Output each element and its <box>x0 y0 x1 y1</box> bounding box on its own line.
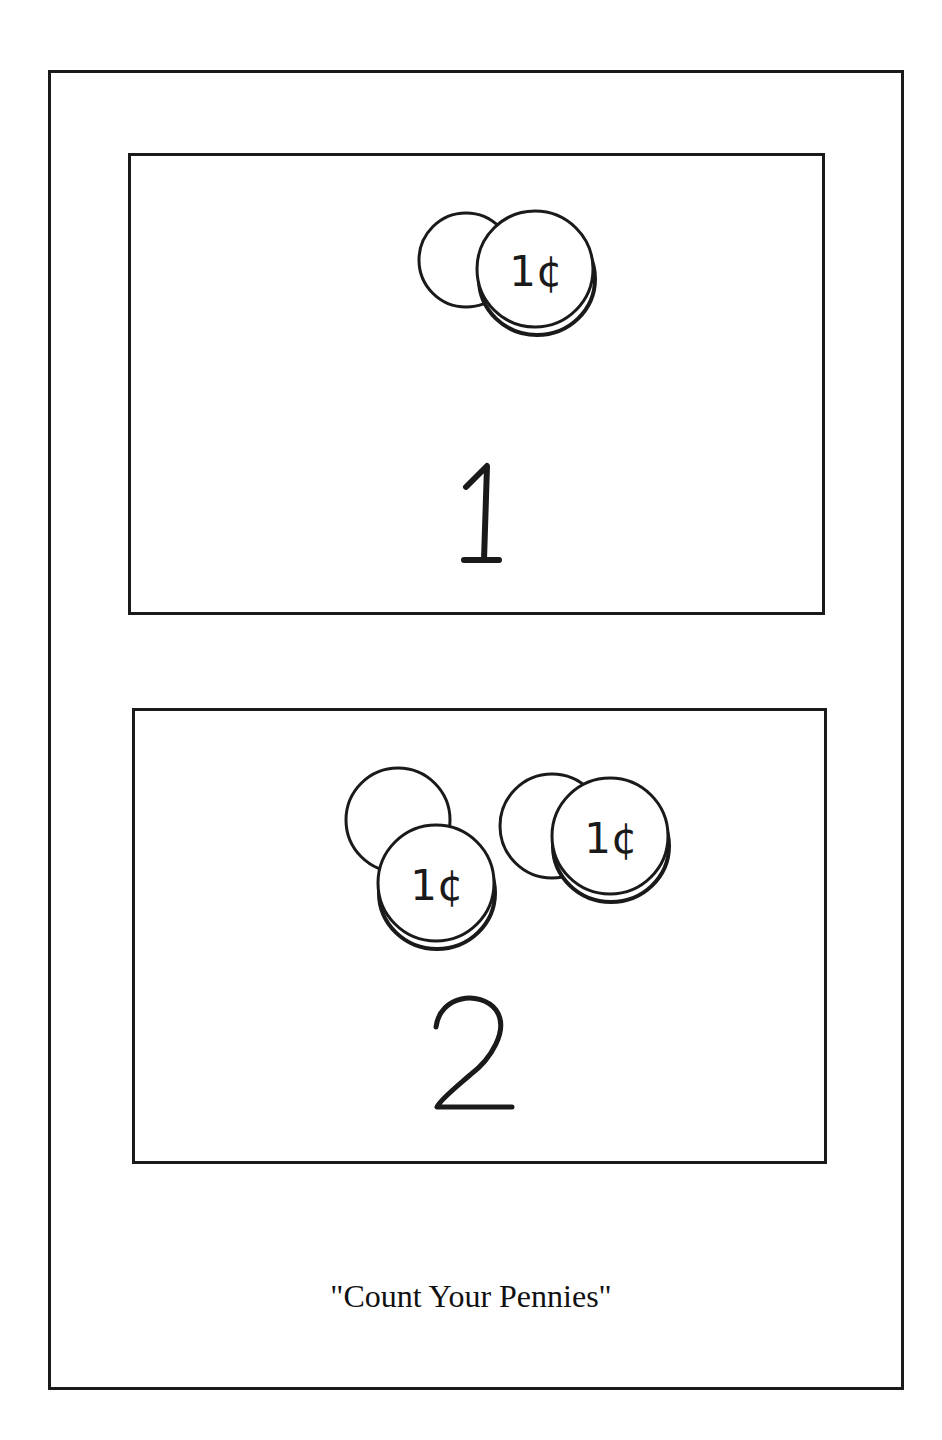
worksheet-caption: "Count Your Pennies" <box>0 1278 942 1315</box>
numeral-two <box>436 998 512 1107</box>
numeral-one <box>464 466 499 560</box>
numerals <box>436 466 512 1107</box>
penny-coin-icon <box>419 211 595 335</box>
coin-label: 1¢ <box>509 247 562 296</box>
coin-label: 1¢ <box>584 814 637 863</box>
penny-coin-icon <box>346 768 495 949</box>
coin-drawings: 1¢ 1¢ 1¢ <box>0 0 942 1440</box>
coin-label: 1¢ <box>410 861 463 910</box>
